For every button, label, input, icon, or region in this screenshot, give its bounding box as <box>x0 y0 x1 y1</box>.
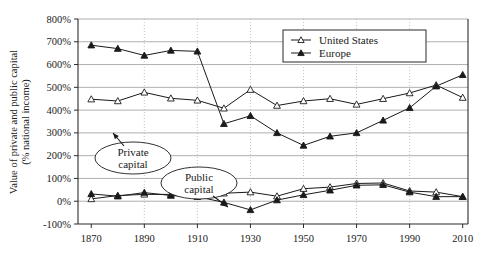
callout-label-line2: capital <box>118 158 147 170</box>
y-axis-title-line1: Value of private and public capital <box>8 50 19 194</box>
y-tick-label: -100% <box>43 219 71 230</box>
y-tick-label: 500% <box>47 82 72 93</box>
legend-label: United States <box>319 34 378 46</box>
x-tick-label: 1890 <box>134 233 155 244</box>
y-tick-label: 100% <box>47 173 72 184</box>
callout-label-line2: capital <box>184 183 213 195</box>
x-tick-label: 2010 <box>452 233 473 244</box>
y-tick-label: 0% <box>57 196 71 207</box>
y-tick-label: 800% <box>47 14 72 25</box>
y-axis-title-line2: (% national income) <box>20 79 32 165</box>
x-tick-label: 1930 <box>240 233 261 244</box>
x-tick-label: 1990 <box>399 233 420 244</box>
x-tick-label: 1870 <box>81 233 102 244</box>
y-tick-label: 700% <box>47 36 72 47</box>
callout-label-line1: Public <box>185 171 213 183</box>
y-tick-label: 400% <box>47 105 72 116</box>
callout-label-line1: Private <box>117 146 148 158</box>
y-tick-label: 300% <box>47 127 72 138</box>
chart-legend: United StatesEurope <box>283 30 426 62</box>
capital-share-line-chart: -100%0%100%200%300%400%500%600%700%800%1… <box>0 0 493 264</box>
y-tick-label: 200% <box>47 150 72 161</box>
chart-canvas: -100%0%100%200%300%400%500%600%700%800%1… <box>0 0 493 264</box>
x-tick-label: 1950 <box>293 233 314 244</box>
legend-label: Europe <box>319 47 351 59</box>
y-tick-label: 600% <box>47 59 72 70</box>
x-tick-label: 1910 <box>187 233 208 244</box>
x-tick-label: 1970 <box>346 233 367 244</box>
